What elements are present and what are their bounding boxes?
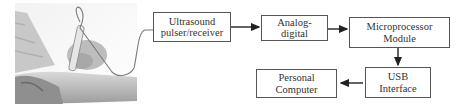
block-analog-digital: Analog- digital	[261, 15, 328, 41]
block-label-line: Interface	[379, 83, 416, 95]
block-label-line: Analog-	[277, 17, 311, 29]
block-personal-computer: Personal Computer	[256, 69, 337, 98]
block-ultrasound-pulser-receiver: Ultrasound pulser/receiver	[153, 12, 231, 42]
block-label-line: Personal	[278, 72, 314, 84]
block-usb-interface: USB Interface	[365, 67, 431, 98]
block-label-line: digital	[281, 28, 308, 40]
block-microprocessor-module: Microprocessor Module	[349, 17, 450, 48]
block-label-line: Module	[383, 33, 416, 45]
probe-cable	[76, 7, 153, 75]
block-label-line: Computer	[276, 84, 318, 96]
block-label-line: USB	[388, 71, 408, 83]
block-label-line: pulser/receiver	[161, 27, 223, 39]
block-label-line: Microprocessor	[367, 21, 433, 33]
block-label-line: Ultrasound	[169, 16, 216, 28]
